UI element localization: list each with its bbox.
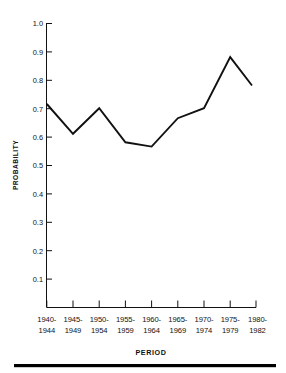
- x-tick-label-top: 1975-: [221, 315, 240, 324]
- y-axis-tick-labels: 1.0 0.9 0.8 0.7 0.6 0.5 0.4 0.3 0.2 0.1: [33, 19, 43, 284]
- x-tick-label-top: 1945-: [64, 315, 83, 324]
- x-tick-label-top: 1955-: [116, 315, 135, 324]
- x-tick-label-top: 1965-: [168, 315, 187, 324]
- x-tick-label-bottom: 1964: [143, 326, 160, 335]
- y-tick-label: 1.0: [33, 19, 43, 28]
- y-tick-label: 0.3: [33, 218, 43, 227]
- bottom-divider-rule: [14, 364, 276, 367]
- y-tick-label: 0.7: [33, 105, 43, 114]
- x-axis-title: PERIOD: [135, 348, 166, 357]
- x-tick-label-top: 1960-: [142, 315, 161, 324]
- x-tick-label-top: 1950-: [90, 315, 109, 324]
- x-tick-label-bottom: 1979: [222, 326, 239, 335]
- y-tick-label: 0.5: [33, 161, 43, 170]
- x-tick-label-bottom: 1974: [196, 326, 213, 335]
- x-tick-label-bottom: 1949: [65, 326, 82, 335]
- x-tick-label-bottom: 1954: [91, 326, 108, 335]
- chart-figure: 1.0 0.9 0.8 0.7 0.6 0.5 0.4 0.3 0.2 0.1 …: [0, 0, 286, 373]
- y-axis-title: PROBABILITY: [12, 140, 19, 190]
- x-tick-label-bottom: 1959: [117, 326, 134, 335]
- x-axis-tick-labels: 1940- 1944 1945- 1949 1950- 1954 1955- 1…: [37, 315, 267, 335]
- x-tick-label-top: 1940-: [37, 315, 56, 324]
- probability-data-line: [47, 57, 252, 147]
- x-tick-label-top: 1980-: [248, 315, 267, 324]
- y-tick-label: 0.8: [33, 76, 43, 85]
- x-tick-label-top: 1970-: [195, 315, 214, 324]
- y-tick-label: 0.6: [33, 133, 43, 142]
- x-tick-label-bottom: 1944: [39, 326, 56, 335]
- y-tick-label: 0.9: [33, 48, 43, 57]
- y-tick-label: 0.2: [33, 247, 43, 256]
- y-axis-ticks: [47, 24, 53, 280]
- x-tick-label-bottom: 1969: [170, 326, 187, 335]
- probability-period-line-chart: 1.0 0.9 0.8 0.7 0.6 0.5 0.4 0.3 0.2 0.1 …: [0, 0, 286, 373]
- y-tick-label: 0.4: [33, 190, 43, 199]
- y-tick-label: 0.1: [33, 275, 43, 284]
- x-axis-ticks: [47, 301, 256, 308]
- x-tick-label-bottom: 1982: [249, 326, 266, 335]
